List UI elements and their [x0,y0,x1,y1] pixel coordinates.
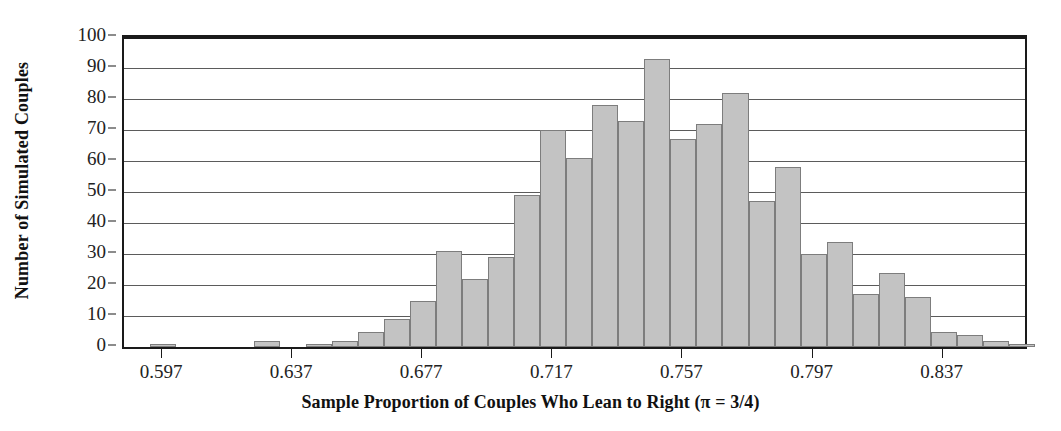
y-tick-label-90: 90 [87,55,106,77]
x-tick-label-3: 0.717 [530,361,573,383]
y-tick-label-60: 60 [87,148,106,170]
histogram-bar [827,242,853,347]
y-tick-mark-10 [108,314,116,315]
histogram-bar [514,195,540,347]
y-tick-label-80: 80 [87,86,106,108]
histogram-figure: Number of Simulated Couples 010203040506… [0,0,1061,431]
histogram-bar [722,93,748,347]
y-axis-ticks: 0102030405060708090100 [46,0,116,431]
x-tick-mark-3 [551,347,552,358]
y-axis-title-text: Number of Simulated Couples [13,61,34,299]
x-tick-mark-4 [681,347,682,358]
x-axis-title: Sample Proportion of Couples Who Lean to… [0,392,1061,413]
plot-area [122,35,1027,349]
x-tick-label-2: 0.677 [400,361,443,383]
y-tick-mark-70 [108,128,116,129]
y-tick-mark-20 [108,283,116,284]
histogram-bar [879,273,905,347]
x-axis-title-text: Sample Proportion of Couples Who Lean to… [301,392,759,412]
y-tick-mark-0 [108,345,116,346]
x-tick-label-0: 0.597 [140,361,183,383]
histogram-bar [462,279,488,347]
histogram-bar [644,59,670,347]
x-tick-label-4: 0.757 [660,361,703,383]
x-tick-mark-2 [421,347,422,358]
histogram-bar [618,121,644,347]
histogram-bar [775,167,801,347]
x-tick-label-1: 0.637 [270,361,313,383]
histogram-bar [749,201,775,347]
histogram-bars [124,37,1025,347]
y-tick-mark-40 [108,221,116,222]
y-tick-mark-60 [108,159,116,160]
histogram-bar [488,257,514,347]
histogram-bar [540,130,566,347]
x-tick-mark-6 [942,347,943,358]
histogram-bar [410,301,436,348]
x-tick-mark-5 [812,347,813,358]
y-tick-mark-30 [108,252,116,253]
histogram-bar [566,158,592,347]
y-tick-mark-80 [108,97,116,98]
histogram-bar [384,319,410,347]
y-tick-label-70: 70 [87,117,106,139]
histogram-bar [670,139,696,347]
y-tick-mark-90 [108,66,116,67]
y-tick-label-10: 10 [87,303,106,325]
y-tick-label-20: 20 [87,272,106,294]
x-tick-mark-0 [161,347,162,358]
x-tick-mark-1 [291,347,292,358]
histogram-bar [801,254,827,347]
y-tick-label-100: 100 [78,24,107,46]
y-tick-label-50: 50 [87,179,106,201]
histogram-bar [957,335,983,347]
y-tick-label-30: 30 [87,241,106,263]
y-tick-mark-50 [108,190,116,191]
histogram-bar [853,294,879,347]
histogram-bar [592,105,618,347]
x-tick-label-6: 0.837 [920,361,963,383]
y-axis-title: Number of Simulated Couples [0,0,46,360]
histogram-bar [696,124,722,347]
histogram-bar [358,332,384,348]
x-tick-label-5: 0.797 [790,361,833,383]
y-tick-label-40: 40 [87,210,106,232]
histogram-bar [436,251,462,347]
histogram-bar [905,297,931,347]
histogram-bar [931,332,957,348]
y-tick-label-0: 0 [97,334,107,356]
y-tick-mark-100 [108,35,116,36]
